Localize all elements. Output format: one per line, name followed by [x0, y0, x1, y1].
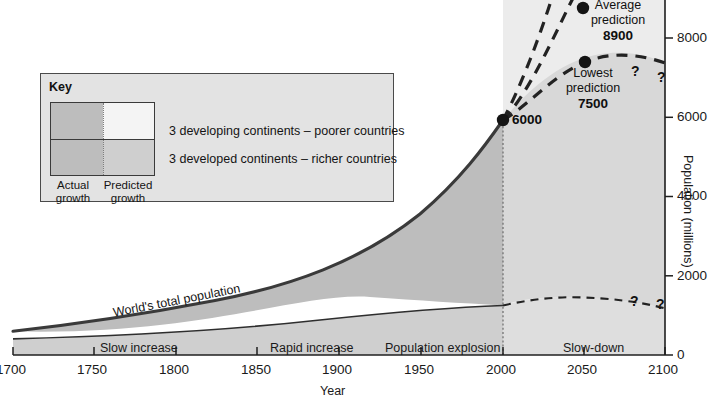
value-label-6000: 6000	[512, 113, 542, 127]
key-caption-predicted: Predicted growth	[101, 179, 155, 205]
average-prediction-annotation: Average prediction 8900	[573, 0, 663, 43]
x-tick-1850: 1850	[241, 363, 271, 377]
question-mark-developed-2: ?	[656, 297, 665, 311]
x-tick-1800: 1800	[159, 363, 189, 377]
population-growth-chart: Key 3 developing continents – poorer cou…	[0, 0, 721, 412]
key-legend: Key 3 developing continents – poorer cou…	[40, 73, 394, 202]
question-mark-lowest-2: ?	[657, 70, 666, 84]
question-mark-developed-1: ?	[630, 294, 639, 308]
x-axis-title: Year	[320, 385, 345, 398]
average-prediction-line1: Average	[595, 0, 641, 12]
average-prediction-line2: prediction	[591, 13, 645, 27]
y-tick-8000: 8000	[677, 31, 707, 45]
band-label-rapid-increase: Rapid increase	[270, 342, 353, 355]
key-swatch-grid	[50, 102, 155, 176]
key-title: Key	[49, 80, 72, 94]
key-swatch-developing-actual	[51, 103, 103, 139]
key-caption-actual: Actual growth	[46, 179, 100, 205]
band-label-population-explosion: Population explosion	[385, 342, 500, 355]
x-tick-2050: 2050	[567, 363, 597, 377]
x-tick-2000: 2000	[486, 363, 516, 377]
lowest-prediction-line2: prediction	[566, 81, 620, 95]
question-mark-lowest-1: ?	[631, 64, 640, 78]
x-tick-1750: 1750	[77, 363, 107, 377]
lowest-prediction-line1: Lowest	[573, 66, 613, 80]
lowest-prediction-value: 7500	[578, 96, 608, 111]
x-tick-1900: 1900	[322, 363, 352, 377]
key-swatch-vertical-divider	[103, 103, 104, 175]
y-tick-0: 0	[677, 348, 685, 362]
key-caption-predicted-line2: growth	[111, 192, 146, 204]
x-tick-2100: 2100	[648, 363, 678, 377]
key-caption-actual-line1: Actual	[57, 179, 89, 191]
x-tick-1950: 1950	[404, 363, 434, 377]
key-swatch-developed-predicted	[103, 139, 155, 175]
lowest-prediction-annotation: Lowest prediction 7500	[548, 66, 638, 111]
key-swatch-developing-predicted	[103, 103, 155, 139]
x-tick-1700: 1700	[0, 363, 26, 377]
key-row-developing-label: 3 developing continents – poorer countri…	[169, 124, 405, 138]
y-axis-title: Population (millions)	[682, 155, 695, 268]
y-axis-ticks	[665, 38, 673, 355]
y-tick-2000: 2000	[677, 269, 707, 283]
band-label-slow-down: Slow-down	[563, 342, 624, 355]
average-prediction-value: 8900	[603, 28, 633, 43]
y-tick-6000: 6000	[677, 110, 707, 124]
key-caption-actual-line2: growth	[56, 192, 91, 204]
key-swatch-developed-actual	[51, 139, 103, 175]
key-row-developed-label: 3 developed continents – richer countrie…	[169, 152, 397, 166]
marker-2000-6000	[497, 114, 509, 126]
key-caption-predicted-line1: Predicted	[104, 179, 153, 191]
band-label-slow-increase: Slow increase	[100, 342, 178, 355]
